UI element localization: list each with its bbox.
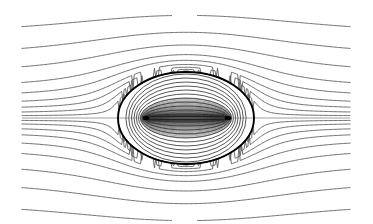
right-focus-point: [225, 116, 232, 120]
left-focus-point: [143, 116, 150, 120]
field-line-diagram: [0, 0, 373, 224]
figure-root: [0, 0, 373, 224]
